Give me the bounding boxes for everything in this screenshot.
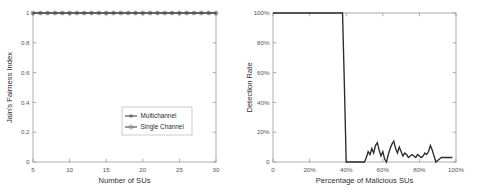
left-ytick-label: 0.4 (21, 99, 30, 106)
right-ytick-label: 80% (257, 39, 270, 46)
jains-fairness-plot: 5101520253000.20.40.60.81Number of SUsJa… (0, 0, 240, 194)
left-ytick-label: 1 (26, 9, 30, 16)
right-ytick-label: 0 (266, 158, 270, 165)
right-ytick-label: 20% (257, 128, 270, 135)
left-xtick-label: 10 (66, 166, 73, 173)
right-xtick-label: 40% (340, 166, 353, 173)
legend-label-single-channel: Single Channel (141, 123, 184, 131)
left-ytick-label: 0.6 (21, 69, 30, 76)
right-xtick-label: 100% (448, 166, 464, 173)
chart-detection-rate: 020%40%60%80%100%020%40%60%80%100%Percen… (240, 0, 480, 194)
right-xtick-label: 60% (377, 166, 390, 173)
chart-jains-fairness-index: 5101520253000.20.40.60.81Number of SUsJa… (0, 0, 240, 194)
left-xtick-label: 20 (139, 166, 146, 173)
detection-rate-plot: 020%40%60%80%100%020%40%60%80%100%Percen… (240, 0, 480, 194)
left-axes-frame (33, 13, 216, 162)
right-ylabel: Detection Rate (245, 62, 254, 112)
left-xlabel: Number of SUs (99, 176, 151, 185)
right-ytick-label: 100% (254, 9, 270, 16)
right-ytick-label: 60% (257, 69, 270, 76)
figure-page: 5101520253000.20.40.60.81Number of SUsJa… (0, 0, 480, 194)
left-xtick-label: 5 (31, 166, 35, 173)
left-ytick-label: 0 (26, 158, 30, 165)
right-xtick-label: 20% (303, 166, 316, 173)
left-xtick-label: 15 (103, 166, 110, 173)
legend-box (122, 107, 192, 135)
left-ytick-label: 0.8 (21, 39, 30, 46)
right-xtick-label: 0 (271, 166, 275, 173)
left-ylabel: Jain's Fairness Index (5, 52, 14, 123)
right-xtick-label: 80% (413, 166, 426, 173)
left-xtick-label: 30 (213, 166, 220, 173)
left-ytick-label: 0.2 (21, 128, 30, 135)
legend-marker-star (129, 114, 133, 118)
series-line-detection-rate (273, 13, 452, 162)
legend-label-multichannel: Multichannel (141, 112, 177, 119)
left-xtick-label: 25 (176, 166, 183, 173)
right-xlabel: Percentage of Malicious SUs (316, 176, 414, 185)
right-ytick-label: 40% (257, 99, 270, 106)
right-axes-frame (273, 13, 456, 162)
